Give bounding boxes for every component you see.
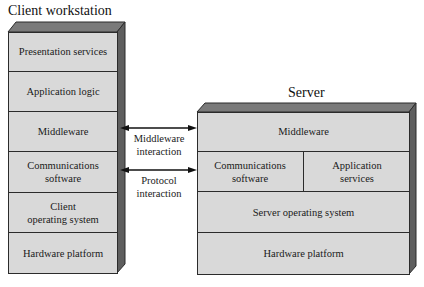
layer-label-line1: Application xyxy=(332,159,382,172)
middleware-interaction-arrow xyxy=(120,125,197,131)
client-title: Client workstation xyxy=(8,3,112,19)
server-layer-application-services: Application services xyxy=(304,152,410,191)
layer-label: Hardware platform xyxy=(23,247,103,260)
label-line2: interaction xyxy=(122,145,196,158)
layer-label: Server operating system xyxy=(253,206,354,219)
layer-label: Application logic xyxy=(26,85,99,98)
client-layer-middleware: Middleware xyxy=(8,112,118,151)
server-layer-operating-system: Server operating system xyxy=(197,192,410,232)
client-layer-operating-system: Client operating system xyxy=(8,193,118,232)
label-line1: Middleware xyxy=(122,132,196,145)
server-layer-middleware: Middleware xyxy=(197,112,410,151)
server-layer-communications-software: Communications software xyxy=(197,152,303,191)
layer-label-line1: Client xyxy=(50,200,76,213)
server-top-bevel xyxy=(197,103,416,112)
layer-label-line1: Communications xyxy=(27,159,99,172)
client-layer-presentation-services: Presentation services xyxy=(8,32,118,71)
server-side-bevel xyxy=(409,103,416,274)
layer-label: Presentation services xyxy=(19,45,107,58)
client-layer-application-logic: Application logic xyxy=(8,72,118,111)
server-layer-hardware-platform: Hardware platform xyxy=(197,233,410,274)
client-top-bevel xyxy=(8,22,125,32)
layer-label-line2: software xyxy=(45,172,81,185)
layer-label-line2: software xyxy=(232,172,268,185)
layer-label: Middleware xyxy=(278,125,329,138)
middleware-interaction-label: Middleware interaction xyxy=(122,132,196,158)
protocol-interaction-label: Protocol interaction xyxy=(122,174,196,200)
layer-label: Hardware platform xyxy=(263,247,343,260)
label-line1: Protocol xyxy=(122,174,196,187)
layer-label: Middleware xyxy=(38,125,89,138)
layer-label-line2: services xyxy=(340,172,374,185)
layer-label-line2: operating system xyxy=(27,213,98,226)
label-line2: interaction xyxy=(122,187,196,200)
server-title: Server xyxy=(288,85,325,101)
client-layer-hardware-platform: Hardware platform xyxy=(8,233,118,273)
protocol-interaction-arrow xyxy=(120,167,197,173)
layer-label-line1: Communications xyxy=(214,159,286,172)
client-layer-communications-software: Communications software xyxy=(8,152,118,192)
